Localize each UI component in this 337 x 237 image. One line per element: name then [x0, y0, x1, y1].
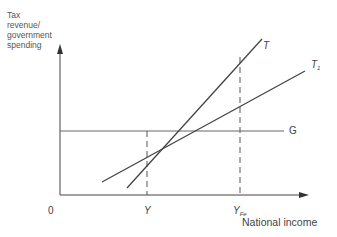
y-marker-label: Y — [144, 205, 151, 216]
t-line-label: T — [263, 40, 269, 51]
t1-line-label: T1 — [311, 59, 320, 71]
diagram-canvas — [0, 0, 337, 237]
g-line-label: G — [289, 125, 297, 136]
x-axis-arrowhead-icon — [299, 192, 309, 198]
t1-line — [102, 71, 305, 182]
origin-label: 0 — [48, 205, 54, 216]
x-axis-label: National income — [242, 216, 317, 228]
t-line — [127, 39, 262, 188]
y-axis-arrowhead-icon — [57, 44, 63, 54]
